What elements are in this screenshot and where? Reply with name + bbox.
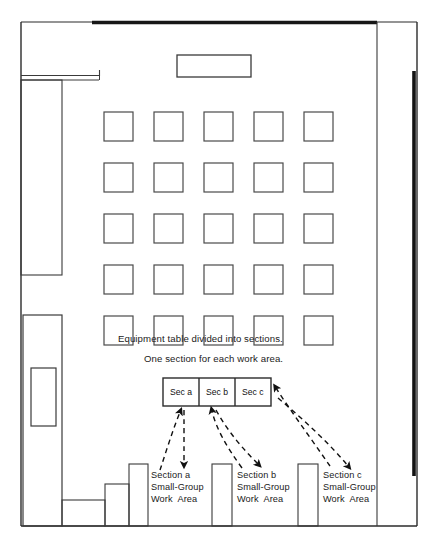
floor-plan-svg: [0, 0, 438, 551]
counter-low-step: [62, 500, 105, 526]
room-outline: [21, 22, 417, 526]
equipment-section-label-b[interactable]: Sec b: [206, 388, 228, 397]
student-desk: [254, 112, 283, 141]
work-area-b-line2: Small-Group: [237, 482, 290, 494]
floor-plan-diagram: Equipment table divided into sections. O…: [0, 0, 438, 551]
student-desk: [254, 163, 283, 192]
student-desk: [104, 163, 133, 192]
student-desk: [154, 163, 183, 192]
student-desk-grid: [104, 112, 333, 345]
work-area-b-line1: Section b: [237, 470, 276, 482]
student-desk: [154, 214, 183, 243]
student-desk: [204, 163, 233, 192]
counter-l-shape: [21, 70, 100, 275]
student-desk: [204, 112, 233, 141]
caption-line-2: One section for each work area.: [144, 353, 283, 365]
counter-top-arm: [21, 70, 100, 76]
student-desk: [304, 112, 333, 141]
work-area-a-line1: Section a: [151, 470, 190, 482]
student-desk: [254, 265, 283, 294]
work-area-c-line2: Small-Group: [323, 482, 376, 494]
student-desk: [204, 265, 233, 294]
work-area-b-line3: Work Area: [237, 494, 283, 506]
arrow-c-up: [276, 388, 330, 466]
student-desk: [304, 316, 333, 345]
arrow-b-up: [212, 411, 242, 468]
student-desk: [304, 265, 333, 294]
work-area-a-line2: Small-Group: [151, 482, 204, 494]
teacher-desk: [177, 55, 251, 77]
work-area-c-line1: Section c: [323, 470, 362, 482]
student-desk: [104, 265, 133, 294]
partition-wall-2: [212, 464, 232, 526]
counter-vertical-leg: [21, 80, 62, 275]
student-desk: [254, 214, 283, 243]
student-desk: [204, 214, 233, 243]
student-desk: [154, 112, 183, 141]
caption-line-1: Equipment table divided into sections.: [118, 333, 283, 345]
arrow-a-up: [160, 412, 180, 470]
equipment-section-label-c[interactable]: Sec c: [242, 388, 264, 397]
stepped-counters: [62, 464, 148, 526]
student-desk: [104, 214, 133, 243]
work-area-a-line3: Work Area: [151, 494, 197, 506]
partition-wall-3: [298, 464, 318, 526]
student-desk: [104, 112, 133, 141]
storage-cabinet: [23, 315, 62, 526]
partition-wall-1: [129, 464, 148, 526]
equipment-section-label-a[interactable]: Sec a: [170, 388, 192, 397]
student-desk: [304, 163, 333, 192]
student-desk: [154, 265, 183, 294]
work-area-c-line3: Work Area: [323, 494, 369, 506]
student-desk: [304, 214, 333, 243]
cabinet-inner-unit: [31, 368, 56, 426]
arrow-c-down: [278, 398, 348, 466]
section-mapping-arrows: [160, 388, 348, 470]
counter-mid-step: [105, 484, 129, 526]
